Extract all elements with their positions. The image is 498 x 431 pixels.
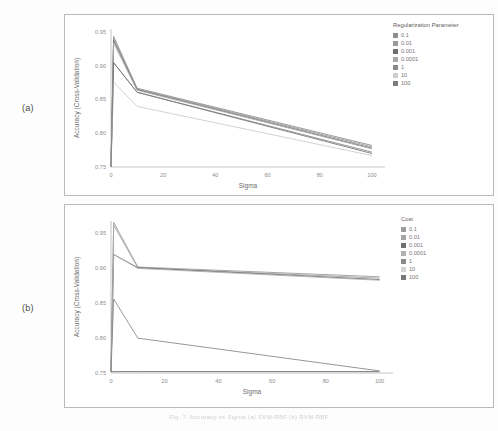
legend-item-100[interactable]: 100	[393, 80, 459, 88]
x-tick-b-3: 60	[260, 378, 284, 384]
plot-area-a: 0.750.800.850.900.95020406080100SigmaAcc…	[65, 15, 493, 195]
legend-swatch-icon-100	[401, 275, 406, 280]
chart-svg-b	[65, 205, 493, 407]
series-line-1	[111, 299, 380, 372]
legend-swatch-icon-1	[393, 65, 398, 70]
legend-title-b: Cost	[401, 217, 426, 223]
legend-label-10: 10	[401, 73, 407, 79]
legend-label-0.0001: 0.0001	[401, 57, 418, 63]
legend-label-10: 10	[409, 267, 415, 273]
legend-item-0.01[interactable]: 0.01	[393, 40, 459, 48]
y-tick-a-3: 0.90	[65, 63, 106, 69]
legend-swatch-icon-0.01	[401, 235, 406, 240]
y-tick-b-4: 0.95	[65, 230, 106, 236]
series-line-10	[111, 82, 372, 167]
legend-title-a: Regularization Parameter	[393, 23, 459, 29]
x-tick-a-2: 40	[203, 172, 227, 178]
y-tick-b-1: 0.80	[65, 335, 106, 341]
legend-label-0.001: 0.001	[409, 243, 423, 249]
legend-item-10[interactable]: 10	[393, 72, 459, 80]
legend-b: Cost0.10.010.0010.0001110100	[401, 217, 426, 282]
legend-label-1: 1	[409, 259, 412, 265]
legend-swatch-icon-0.1	[401, 227, 406, 232]
legend-swatch-icon-10	[401, 267, 406, 272]
x-tick-a-3: 60	[256, 172, 280, 178]
x-tick-b-4: 80	[314, 378, 338, 384]
y-tick-a-4: 0.95	[65, 29, 106, 35]
y-tick-b-0: 0.75	[65, 370, 106, 376]
x-axis-title-a: Sigma	[81, 182, 415, 189]
chart-panel-b: 0.750.800.850.900.95020406080100SigmaAcc…	[64, 204, 494, 408]
legend-item-0.0001[interactable]: 0.0001	[401, 250, 426, 258]
legend-swatch-icon-0.1	[393, 33, 398, 38]
series-line-0.01	[111, 225, 380, 371]
figure-caption: Fig. 7. Accuracy vs Sigma (a) SVM-RBF (b…	[0, 414, 498, 420]
legend-label-1: 1	[401, 65, 404, 71]
legend-swatch-icon-0.001	[393, 49, 398, 54]
legend-swatch-icon-0.0001	[401, 251, 406, 256]
legend-item-1[interactable]: 1	[401, 258, 426, 266]
series-line-0.001	[111, 40, 372, 167]
legend-label-100: 100	[409, 275, 418, 281]
legend-item-0.01[interactable]: 0.01	[401, 234, 426, 242]
legend-label-0.1: 0.1	[401, 33, 409, 39]
legend-swatch-icon-100	[393, 81, 398, 86]
x-tick-a-1: 20	[151, 172, 175, 178]
legend-swatch-icon-0.001	[401, 243, 406, 248]
legend-swatch-icon-10	[393, 73, 398, 78]
y-axis-title-b: Accuracy (Cross-Validation)	[73, 257, 80, 337]
legend-item-1[interactable]: 1	[393, 64, 459, 72]
legend-item-100[interactable]: 100	[401, 274, 426, 282]
x-tick-a-4: 80	[308, 172, 332, 178]
x-tick-a-0: 0	[99, 172, 123, 178]
legend-item-0.001[interactable]: 0.001	[393, 48, 459, 56]
legend-label-0.1: 0.1	[409, 227, 417, 233]
legend-label-0.01: 0.01	[401, 41, 412, 47]
y-tick-a-0: 0.75	[65, 164, 106, 170]
legend-label-0.01: 0.01	[409, 235, 420, 241]
panel-label-a: (a)	[22, 103, 34, 113]
x-tick-b-5: 100	[368, 378, 392, 384]
y-tick-a-2: 0.85	[65, 96, 106, 102]
legend-item-0.001[interactable]: 0.001	[401, 242, 426, 250]
legend-a: Regularization Parameter0.10.010.0010.00…	[393, 23, 459, 88]
legend-item-0.0001[interactable]: 0.0001	[393, 56, 459, 64]
legend-label-0.001: 0.001	[401, 49, 415, 55]
legend-item-0.1[interactable]: 0.1	[401, 226, 426, 234]
x-tick-b-0: 0	[99, 378, 123, 384]
legend-label-100: 100	[401, 81, 410, 87]
y-tick-b-3: 0.90	[65, 265, 106, 271]
legend-swatch-icon-1	[401, 259, 406, 264]
legend-swatch-icon-0.01	[393, 41, 398, 46]
legend-swatch-icon-0.0001	[393, 57, 398, 62]
y-tick-a-1: 0.80	[65, 130, 106, 136]
y-tick-b-2: 0.85	[65, 300, 106, 306]
legend-item-0.1[interactable]: 0.1	[393, 32, 459, 40]
chart-panel-a: 0.750.800.850.900.95020406080100SigmaAcc…	[64, 14, 494, 196]
plot-area-b: 0.750.800.850.900.95020406080100SigmaAcc…	[65, 205, 493, 407]
series-line-0.0001	[111, 43, 372, 167]
legend-item-10[interactable]: 10	[401, 266, 426, 274]
x-tick-b-2: 40	[206, 378, 230, 384]
y-axis-title-a: Accuracy (Cross-Validation)	[73, 58, 80, 138]
x-tick-a-5: 100	[360, 172, 384, 178]
legend-label-0.0001: 0.0001	[409, 251, 426, 257]
x-axis-title-b: Sigma	[81, 388, 423, 395]
series-line-0.1	[111, 222, 380, 371]
x-tick-b-1: 20	[153, 378, 177, 384]
panel-label-b: (b)	[22, 303, 34, 313]
